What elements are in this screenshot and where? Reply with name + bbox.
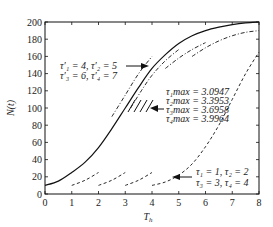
arrow-head-icon xyxy=(141,63,149,69)
annotation-tau-prime-line2: τ′₃ = 6, τ′₄ = 7 xyxy=(60,70,118,81)
series-line xyxy=(192,31,259,57)
y-tick-label: 60 xyxy=(32,137,42,148)
x-axis-label: Th xyxy=(143,211,153,224)
y-tick-label: 20 xyxy=(32,171,42,182)
annotation-tau: τ₁ = 1, τ₂ = 2 τ₃ = 3, τ₄ = 4 xyxy=(172,166,249,188)
y-tick-label: 0 xyxy=(37,189,42,200)
y-tick-label: 100 xyxy=(27,103,42,114)
chart: 012345678020406080100120140160180200 N(t… xyxy=(0,0,273,227)
annotation-tau-line2: τ₃ = 3, τ₄ = 4 xyxy=(196,177,249,188)
y-tick-label: 140 xyxy=(27,68,42,79)
y-tick-label: 180 xyxy=(27,34,42,45)
x-tick-label: 3 xyxy=(123,197,128,208)
series-line xyxy=(99,173,126,186)
y-axis-label: N(t) xyxy=(5,99,17,117)
annotation-tau-max-line4: τ₄max = 3.9964 xyxy=(166,113,229,124)
x-tick-label: 6 xyxy=(203,197,208,208)
x-tick-label: 5 xyxy=(176,197,181,208)
x-tick-label: 4 xyxy=(150,197,155,208)
arrow-head-icon xyxy=(150,105,158,112)
x-tick-label: 0 xyxy=(43,197,48,208)
arrow-head-icon xyxy=(172,174,180,180)
y-tick-label: 160 xyxy=(27,51,42,62)
series-line xyxy=(125,173,152,186)
annotation-tau-max: τ₁max = 3.0947 τ₂max = 3.3953 τ₃max = 3.… xyxy=(128,86,230,124)
x-tick-label: 8 xyxy=(257,197,262,208)
annotation-tau-line1: τ₁ = 1, τ₂ = 2 xyxy=(196,166,249,177)
y-tick-label: 40 xyxy=(32,154,42,165)
x-tick-label: 2 xyxy=(96,197,101,208)
y-tick-label: 120 xyxy=(27,85,42,96)
y-tick-label: 200 xyxy=(27,17,42,28)
x-tick-label: 7 xyxy=(230,197,235,208)
x-tick-label: 1 xyxy=(69,197,74,208)
y-tick-label: 80 xyxy=(32,120,42,131)
series-line xyxy=(72,173,99,186)
